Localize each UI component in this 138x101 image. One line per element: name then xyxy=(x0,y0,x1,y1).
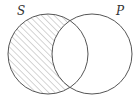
set-s-label: S xyxy=(17,4,25,18)
venn-diagram: S P xyxy=(0,0,138,101)
set-p-label: P xyxy=(115,4,125,18)
